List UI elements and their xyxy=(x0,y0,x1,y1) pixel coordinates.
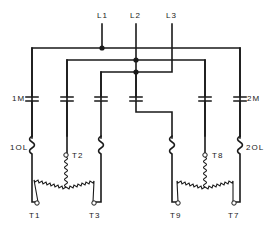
label-1M: 1M xyxy=(12,94,25,103)
contact-1M-b xyxy=(61,60,73,155)
winding-T7-leg xyxy=(205,181,233,202)
label-1OL: 1OL xyxy=(10,143,28,152)
junction-L1 xyxy=(99,45,104,50)
label-T7: T7 xyxy=(228,211,239,220)
label-L3: L3 xyxy=(166,11,177,20)
contact-2M-b xyxy=(199,60,211,155)
winding-T2-leg xyxy=(65,157,68,187)
label-2OL: 2OL xyxy=(246,143,264,152)
label-L1: L1 xyxy=(97,11,108,20)
overload-heaters xyxy=(30,136,243,202)
terminal-T1 xyxy=(35,201,39,205)
contact-1M-a xyxy=(26,48,38,138)
junction-L2 xyxy=(133,57,138,62)
heater-2OL-a xyxy=(170,136,178,202)
terminal-T9 xyxy=(176,201,180,205)
winding-1-wye xyxy=(34,153,96,205)
label-L2: L2 xyxy=(130,11,141,20)
label-T8: T8 xyxy=(212,151,223,160)
terminal-T2 xyxy=(64,153,68,157)
heater-2OL xyxy=(234,136,243,202)
heater-1OL xyxy=(30,136,37,202)
contact-2M-c xyxy=(234,48,246,138)
contact-2M-a xyxy=(130,72,172,138)
motor-wiring-diagram: L1 L2 L3 1M xyxy=(0,0,273,231)
contact-1M-c xyxy=(95,72,107,138)
label-T2: T2 xyxy=(72,151,83,160)
winding-T9-leg xyxy=(177,181,205,202)
winding-T1-leg xyxy=(34,180,66,202)
label-T9: T9 xyxy=(170,211,181,220)
label-2M: 2M xyxy=(247,94,260,103)
terminal-T3 xyxy=(92,201,96,205)
winding-T8-leg xyxy=(204,157,207,187)
terminal-T8 xyxy=(203,153,207,157)
terminal-T7 xyxy=(232,201,236,205)
heater-1OL-b xyxy=(95,136,104,202)
winding-T3-leg xyxy=(66,181,94,202)
label-T3: T3 xyxy=(89,211,100,220)
winding-2-wye xyxy=(176,153,236,205)
label-T1: T1 xyxy=(29,211,40,220)
